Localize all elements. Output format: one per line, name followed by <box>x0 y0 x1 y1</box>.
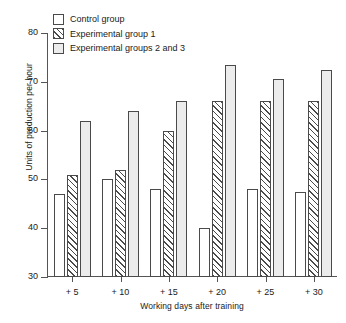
bar-control <box>150 189 161 277</box>
bar-exp1 <box>308 101 319 277</box>
bar-control <box>199 228 210 277</box>
legend-item-exp23: Experimental groups 2 and 3 <box>53 41 185 56</box>
y-axis-line <box>47 33 48 278</box>
bar-group <box>247 33 284 277</box>
bar-control <box>247 189 258 277</box>
x-axis-tick <box>217 277 218 282</box>
x-axis-tick-label: + 30 <box>289 287 339 297</box>
bar-group <box>54 33 91 277</box>
bar-exp1 <box>260 101 271 277</box>
bar-exp23 <box>321 70 332 277</box>
legend-swatch-control-icon <box>53 14 64 25</box>
bar-exp1 <box>115 170 126 277</box>
plot-area: 304050607080+ 5+ 10+ 15+ 20+ 25+ 30 <box>47 33 337 277</box>
x-axis-tick-label: + 10 <box>96 287 146 297</box>
x-axis-tick <box>266 277 267 282</box>
y-axis-tick: 60 <box>41 131 47 132</box>
legend-label-control: Control group <box>70 14 125 24</box>
bar-exp23 <box>273 79 284 277</box>
bar-group <box>295 33 332 277</box>
bar-exp1 <box>163 131 174 277</box>
bar-exp23 <box>128 111 139 277</box>
legend-item-exp1: Experimental group 1 <box>53 27 185 42</box>
bar-chart-figure: Units of production per hour 30405060708… <box>0 0 346 323</box>
x-axis-tick-label: + 5 <box>47 287 97 297</box>
x-axis-tick <box>72 277 73 282</box>
bar-exp23 <box>80 121 91 277</box>
x-axis-tick-label: + 25 <box>241 287 291 297</box>
bar-group <box>199 33 236 277</box>
x-axis-tick <box>121 277 122 282</box>
y-axis-tick-label: 70 <box>28 76 38 86</box>
x-axis-tick-label: + 15 <box>144 287 194 297</box>
x-axis-tick <box>314 277 315 282</box>
legend: Control group Experimental group 1 Exper… <box>53 12 185 56</box>
x-axis-title: Working days after training <box>47 301 337 311</box>
y-axis-tick-label: 80 <box>28 27 38 37</box>
legend-swatch-exp23-icon <box>53 43 64 54</box>
bar-exp23 <box>225 65 236 277</box>
y-axis-tick-label: 50 <box>28 173 38 183</box>
y-axis-tick: 40 <box>41 228 47 229</box>
legend-item-control: Control group <box>53 12 185 27</box>
bar-exp23 <box>176 101 187 277</box>
y-axis-tick-label: 40 <box>28 222 38 232</box>
legend-label-exp23: Experimental groups 2 and 3 <box>70 43 185 53</box>
x-axis-tick <box>169 277 170 282</box>
y-axis-tick: 70 <box>41 82 47 83</box>
bar-control <box>102 179 113 277</box>
y-axis-tick: 50 <box>41 179 47 180</box>
y-axis-tick-label: 60 <box>28 125 38 135</box>
bar-group <box>150 33 187 277</box>
bar-control <box>295 192 306 277</box>
bar-exp1 <box>67 175 78 277</box>
x-axis-tick-label: + 20 <box>192 287 242 297</box>
bar-group <box>102 33 139 277</box>
legend-swatch-exp1-icon <box>53 28 64 39</box>
bar-exp1 <box>212 101 223 277</box>
y-axis-tick: 30 <box>41 277 47 278</box>
bar-control <box>54 194 65 277</box>
y-axis-tick-label: 30 <box>28 271 38 281</box>
legend-label-exp1: Experimental group 1 <box>70 29 156 39</box>
y-axis-tick: 80 <box>41 33 47 34</box>
